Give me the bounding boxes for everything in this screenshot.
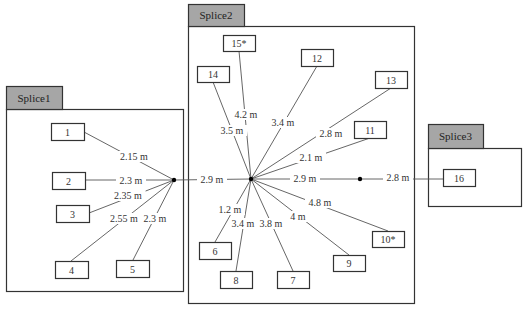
hub3-dot: [358, 177, 362, 181]
distance-label: 2.8 m: [387, 172, 410, 183]
node-3[interactable]: 3: [57, 206, 90, 223]
node-label: 4: [69, 265, 74, 276]
distance-label: 3.4 m: [272, 117, 295, 128]
splice3-title: Splice3: [439, 130, 472, 142]
splice1-title: Splice1: [18, 92, 51, 104]
distance-label: 2.8 m: [320, 128, 343, 139]
distance-label: 2.35 m: [114, 190, 142, 201]
node-label: 11: [365, 125, 375, 136]
node-9[interactable]: 9: [334, 256, 366, 272]
group-splice1[interactable]: Splice1: [7, 87, 184, 292]
node-5[interactable]: 5: [117, 261, 150, 278]
node-14[interactable]: 14: [198, 67, 230, 83]
hub1-dot: [172, 178, 176, 182]
splice-diagram: Splice1Splice2Splice3 2.15 m2.3 m2.35 m2…: [0, 0, 525, 309]
distance-label: 3.8 m: [260, 218, 283, 229]
distance-label: 3.4 m: [232, 218, 255, 229]
node-13[interactable]: 13: [376, 72, 408, 89]
node-label: 9: [347, 258, 352, 269]
node-label: 16: [454, 173, 464, 184]
distance-label: 2.3 m: [120, 175, 143, 186]
node-16[interactable]: 16: [444, 170, 476, 187]
node-label: 12: [312, 53, 322, 64]
splice2-title: Splice2: [200, 9, 233, 21]
distance-label: 2.3 m: [144, 213, 167, 224]
node-label: 14: [208, 69, 218, 80]
splice1-box: [7, 110, 184, 292]
node-15-star[interactable]: 15*: [224, 36, 256, 52]
node-4[interactable]: 4: [56, 262, 89, 279]
node-label: 6: [213, 246, 218, 257]
distance-label: 2.55 m: [110, 213, 138, 224]
node-label: 8: [234, 275, 239, 286]
hub2-dot: [249, 177, 253, 181]
splice-groups: Splice1Splice2Splice3: [7, 5, 522, 304]
node-label: 10*: [381, 234, 396, 245]
distance-label: 3.5 m: [221, 125, 244, 136]
node-label: 3: [70, 209, 75, 220]
distance-label: 2.9 m: [201, 174, 224, 185]
node-1[interactable]: 1: [52, 124, 85, 141]
node-7[interactable]: 7: [278, 272, 310, 289]
distance-label: 4 m: [290, 211, 306, 222]
node-label: 7: [291, 275, 296, 286]
node-label: 15*: [232, 38, 247, 49]
distance-label: 1.2 m: [219, 204, 242, 215]
distance-label: 4.2 m: [235, 109, 258, 120]
node-10-star[interactable]: 10*: [373, 232, 405, 248]
node-label: 1: [65, 127, 70, 138]
distance-label: 2.15 m: [120, 151, 148, 162]
group-splice3[interactable]: Splice3: [429, 125, 522, 207]
distance-label: 2.1 m: [300, 152, 323, 163]
distance-label: 2.9 m: [294, 173, 317, 184]
node-label: 13: [386, 75, 396, 86]
distance-label: 4.8 m: [309, 197, 332, 208]
node-label: 5: [130, 264, 135, 275]
node-label: 2: [66, 176, 71, 187]
node-6[interactable]: 6: [200, 243, 232, 260]
node-12[interactable]: 12: [302, 50, 334, 67]
node-2[interactable]: 2: [53, 173, 86, 190]
node-11[interactable]: 11: [355, 122, 387, 139]
node-8[interactable]: 8: [221, 272, 253, 289]
